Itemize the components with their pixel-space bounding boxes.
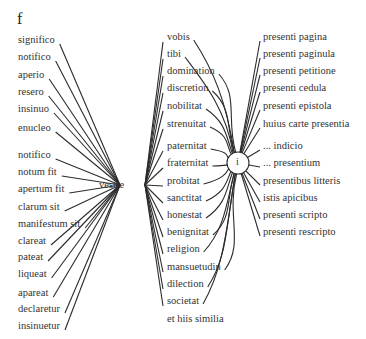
right-phrase-label: ... presentium <box>263 157 320 169</box>
left-word-label: insinuo <box>18 103 49 115</box>
middle-to-circle-edge <box>211 149 229 158</box>
middle-word-label: vobis <box>167 31 190 43</box>
middle-word-label: discretion <box>167 82 208 94</box>
circle-to-right-edge <box>247 150 260 157</box>
left-edge <box>53 185 120 297</box>
left-word-label: enucleo <box>18 122 51 134</box>
left-edge <box>56 61 120 185</box>
middle-word-label: religion <box>167 243 200 255</box>
right-phrase-label: huius carte presentia <box>263 118 349 130</box>
middle-to-circle-edge <box>212 164 227 166</box>
left-word-label: significo <box>18 34 55 46</box>
left-word-label: apertum fit <box>18 183 64 195</box>
left-word-label: manifestum sit <box>18 218 80 230</box>
left-edge <box>54 113 120 185</box>
circle-to-right-edge <box>241 75 260 152</box>
left-word-label: liqueat <box>18 268 47 280</box>
middle-word-label: fraternitat <box>167 157 208 169</box>
circle-to-right-edge <box>249 165 260 167</box>
left-edge <box>49 79 120 185</box>
middle-to-circle-edge <box>206 171 231 201</box>
middle-word-label: dilection <box>167 278 204 290</box>
middle-word-label: paternitat <box>167 140 207 152</box>
middle-word-label: domination <box>167 65 215 77</box>
middle-word-label: nobilitat <box>167 100 202 112</box>
left-word-label: notum fit <box>18 166 57 178</box>
right-phrase-label: ... indicio <box>263 140 303 152</box>
right-phrase-label: presenti cedula <box>263 82 326 94</box>
left-word-label: clarum sit <box>18 201 60 213</box>
middle-to-circle-edge <box>204 169 229 184</box>
right-phrase-label: presenti epistola <box>263 100 332 112</box>
left-word-label: pateat <box>18 251 43 263</box>
hub-to-middle-edge <box>145 185 163 186</box>
left-word-label: apareat <box>18 287 48 299</box>
left-word-label: clareat <box>18 235 46 247</box>
middle-to-circle-edge <box>194 40 235 153</box>
middle-word-label: honestat <box>167 209 202 221</box>
left-word-label: aperio <box>18 69 44 81</box>
middle-word-label: et hiis similia <box>167 313 224 325</box>
figure-label: f <box>17 10 22 28</box>
middle-word-label: benignitat <box>167 226 209 238</box>
left-word-label: notifico <box>18 149 51 161</box>
right-phrase-label: presenti pagina <box>263 31 327 43</box>
circle-to-right-edge <box>246 171 260 185</box>
circle-node-label: i <box>236 156 239 167</box>
left-edge <box>49 96 120 185</box>
left-word-label: resero <box>18 86 44 98</box>
left-word-label: notifico <box>18 51 51 63</box>
right-phrase-label: istis apicibus <box>263 192 318 204</box>
right-phrase-label: presentibus litteris <box>263 175 340 187</box>
right-phrase-label: presenti rescripto <box>263 226 336 238</box>
left-word-label: insinuetur <box>18 320 60 332</box>
middle-word-label: societat <box>167 295 199 307</box>
right-phrase-label: presenti petitione <box>263 65 336 77</box>
right-phrase-label: presenti scripto <box>263 209 327 221</box>
left-word-label: declaretur <box>18 303 60 315</box>
hub-word-vestre: vestre <box>99 179 124 191</box>
middle-word-label: sanctitat <box>167 192 202 204</box>
middle-word-label: strenuitat <box>167 118 206 130</box>
right-phrase-label: presenti paginula <box>263 48 335 60</box>
middle-word-label: probitat <box>167 175 200 187</box>
circle-to-right-edge <box>240 58 260 152</box>
middle-word-label: mansuetudin <box>167 261 221 273</box>
word-network-diagram: f significonotificoaperioreseroinsinuoen… <box>0 0 366 339</box>
middle-word-label: tibi <box>167 48 181 60</box>
